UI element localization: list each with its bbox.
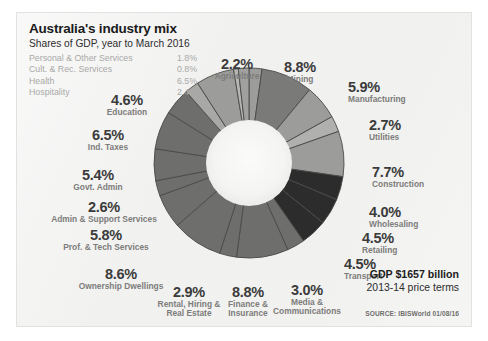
callout-category: Govt. Admin [73,183,122,192]
callout-percent: 3.0% [273,283,341,298]
legend-value: 2.4% [177,87,197,98]
callout-percent: 2.9% [158,285,221,300]
callout-category: Finance &Insurance [228,300,268,317]
callout-category: Admin & Support Services [51,215,157,224]
legend-row: Cult. & Rec. Services0.8% [29,64,197,75]
callout-label: 8.6%Ownership Dwellings [79,267,164,291]
infographic-card: Australia's industry mix Shares of GDP, … [17,13,471,326]
callout-percent: 8.8% [284,60,316,75]
callout-percent: 5.9% [348,80,406,95]
chart-header: Australia's industry mix Shares of GDP, … [29,21,259,98]
legend-row: Hospitality2.4% [29,87,197,98]
callout-label: 2.6%Admin & Support Services [51,200,157,224]
callout-category: Ind. Taxes [88,143,128,152]
callout-category: Wholesaling [369,220,418,229]
legend-label: Cult. & Rec. Services [29,64,112,75]
callout-category: Ownership Dwellings [79,282,164,291]
legend-value: 6.5% [177,76,197,87]
page-title: Australia's industry mix [29,21,259,36]
legend-value: 1.8% [177,53,197,64]
callout-label: 3.0%Media &Communications [273,283,341,316]
callout-label: 2.9%Rental, Hiring &Real Estate [158,285,221,318]
callout-percent: 4.5% [362,231,397,246]
legend-label: Health [29,76,54,87]
callout-label: 7.7%Construction [372,165,424,189]
callout-label: 5.8%Prof. & Tech Services [63,228,149,252]
callout-percent: 8.6% [79,267,164,282]
callout-category: Rental, Hiring &Real Estate [158,300,221,317]
callout-category: Construction [372,180,424,189]
callout-label: 4.0%Wholesaling [369,205,418,229]
legend-label: Hospitality [29,87,70,98]
callout-percent: 7.7% [372,165,424,180]
callout-percent: 4.0% [369,205,418,220]
callout-percent: 2.6% [51,200,157,215]
callout-label: 5.9%Manufacturing [348,80,406,104]
legend-label: Personal & Other Services [29,53,133,64]
callout-category: Education [107,108,147,117]
legend-value: 0.8% [177,64,197,75]
chart-subtitle: Shares of GDP, year to March 2016 [29,37,259,50]
gdp-subline: 2013-14 price terms [367,281,459,294]
callout-label: 5.4%Govt. Admin [73,168,122,192]
gdp-summary: GDP $1657 billion 2013-14 price terms [367,268,459,294]
legend-row: Personal & Other Services1.8% [29,53,197,64]
callout-percent: 5.4% [73,168,122,183]
legend-row: Health6.5% [29,76,197,87]
callout-percent: 2.7% [369,118,401,133]
callout-label: 8.8%Mining [284,60,316,84]
callout-category: Media &Communications [273,298,341,315]
legend-list: Personal & Other Services1.8%Cult. & Rec… [29,53,259,98]
callout-label: 2.7%Utilities [369,118,401,142]
callout-label: 6.5%Ind. Taxes [88,128,128,152]
callout-percent: 8.8% [228,285,268,300]
callout-category: Retailing [362,246,397,255]
callout-category: Utilities [369,133,401,142]
callout-label: 4.5%Retailing [362,231,397,255]
callout-percent: 5.8% [63,228,149,243]
callout-label: 8.8%Finance &Insurance [228,285,268,318]
donut-hole [206,120,292,206]
gdp-headline: GDP $1657 billion [367,268,459,281]
callout-category: Prof. & Tech Services [63,243,149,252]
source-credit: SOURCE: IBISWorld 01/08/16 [365,310,459,317]
callout-category: Manufacturing [348,95,406,104]
callout-percent: 6.5% [88,128,128,143]
callout-category: Mining [284,75,316,84]
